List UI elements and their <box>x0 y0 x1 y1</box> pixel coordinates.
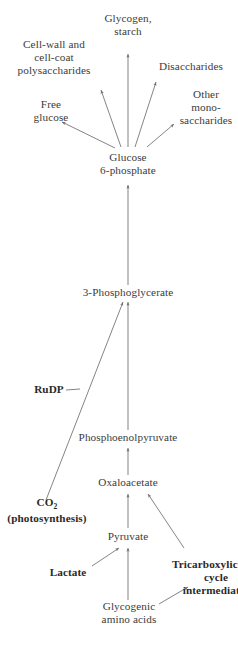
node-glycogen-starch: Glycogen, starch <box>96 12 160 38</box>
co2-label: CO <box>37 496 54 508</box>
node-phosphoenolpyruvate: Phosphoenolpyruvate <box>62 431 194 444</box>
edge-g6p-to-disaccharides <box>135 82 156 147</box>
edge-g6p-to-other-mono <box>147 124 174 147</box>
node-pyruvate: Pyruvate <box>94 530 162 543</box>
node-co2-photosynthesis: CO2(photosynthesis) <box>2 496 92 525</box>
co2-note: (photosynthesis) <box>7 512 86 524</box>
pathway-diagram: Glycogen, starch Cell-wall and cell-coat… <box>0 0 238 648</box>
node-rudp: RuDP <box>31 383 67 396</box>
co2-subscript: 2 <box>54 502 58 511</box>
node-free-glucose: Free glucose <box>24 98 78 124</box>
edge-g6p-to-free-glucose <box>62 122 115 148</box>
node-cell-wall-polysaccharides: Cell-wall and cell-coat polysaccharides <box>8 38 100 78</box>
node-oxaloacetate: Oxaloacetate <box>82 476 174 489</box>
node-glycogenic-amino-acids: Glycogenic amino acids <box>86 600 172 626</box>
node-other-monosaccharides: Other mono- saccharides <box>176 88 236 128</box>
node-disaccharides: Disaccharides <box>148 60 234 73</box>
edge-lactate-to-pyruvate <box>92 548 119 566</box>
node-glucose-6-phosphate: Glucose 6-phosphate <box>86 151 170 177</box>
node-lactate: Lactate <box>42 566 94 579</box>
edge-g6p-to-cell-wall <box>101 90 121 147</box>
node-3-phosphoglycerate: 3-Phosphoglycerate <box>68 286 188 299</box>
edge-co2-to-pga <box>46 302 123 500</box>
node-tricarboxylic-cycle-intermediates: Tricarboxylic acid cycle intermediates <box>172 558 238 598</box>
edge-rudp-connector <box>66 389 80 390</box>
